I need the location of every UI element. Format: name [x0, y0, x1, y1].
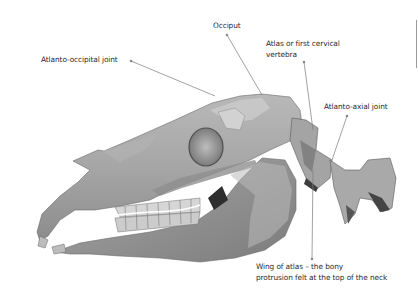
label-wing-of-atlas: Wing of atlas – the bony protrusion felt… [256, 262, 387, 283]
leader-occiput [227, 35, 262, 95]
label-occiput: Occiput [213, 21, 241, 32]
eye-socket [189, 128, 223, 166]
label-atlas: Atlas or first cervical vertebra [266, 39, 340, 60]
label-atlanto-occipital-joint: Atlanto-occipital joint [41, 55, 118, 66]
label-atlas-line2: vertebra [266, 50, 340, 61]
label-wing-line2: protrusion felt at the top of the neck [256, 273, 387, 284]
label-atlas-line1: Atlas or first cervical [266, 39, 340, 50]
label-atlanto-axial-joint: Atlanto-axial joint [324, 102, 388, 113]
leader-atlanto-occipital [131, 61, 215, 96]
page-edge-line [416, 20, 417, 68]
label-wing-line1: Wing of atlas – the bony [256, 262, 387, 273]
leader-atlanto-axial [332, 116, 347, 160]
horse-skull-illustration [0, 0, 418, 293]
skull-diagram: Atlanto-occipital joint Occiput Atlas or… [0, 0, 418, 293]
axis-vertebra [330, 158, 396, 224]
